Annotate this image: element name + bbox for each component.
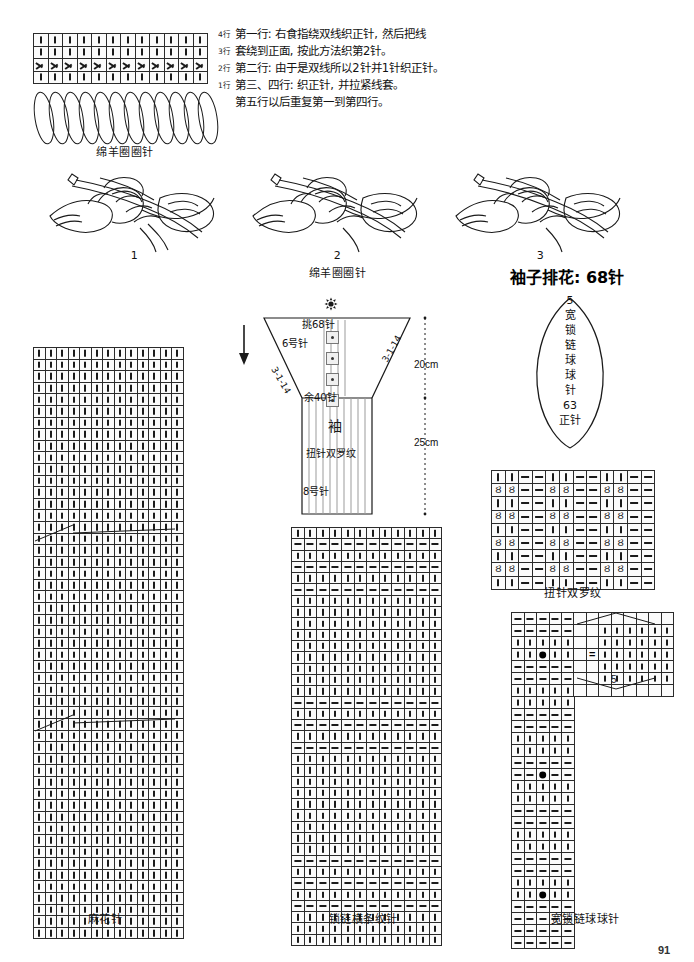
chart-cell-purl bbox=[573, 563, 587, 576]
instruction-line: 第二行: 由于是双线所以2针并1针织正针。 bbox=[235, 60, 444, 77]
chart-cell-knit bbox=[160, 463, 172, 475]
knit-symbol bbox=[149, 580, 160, 591]
chart-cell-knit bbox=[172, 730, 184, 742]
chart-cell-knit bbox=[103, 661, 115, 673]
chart-cell-knit bbox=[429, 776, 442, 787]
chart-cell-blank bbox=[574, 625, 587, 637]
chart-cell-knit bbox=[329, 833, 342, 844]
knit-symbol bbox=[430, 844, 442, 854]
chart-cell-knit bbox=[68, 463, 80, 475]
knit-symbol bbox=[149, 603, 160, 614]
chart-cell-loop bbox=[106, 59, 121, 72]
knit-symbol bbox=[342, 844, 354, 854]
chart-cell-knit bbox=[342, 573, 355, 584]
knit-symbol bbox=[317, 528, 329, 538]
knit-symbol bbox=[172, 580, 183, 591]
knit-symbol bbox=[367, 675, 379, 685]
chart-cell-knit bbox=[57, 765, 69, 777]
chart-cell-knit bbox=[329, 618, 342, 629]
chart-cell-purl bbox=[587, 471, 601, 484]
knit-symbol bbox=[525, 793, 537, 804]
knit-symbol bbox=[126, 348, 137, 359]
knit-symbol bbox=[34, 754, 45, 765]
chart-row bbox=[34, 603, 184, 615]
chart-cell-purl bbox=[417, 539, 430, 550]
chart-cell-knit bbox=[45, 834, 57, 846]
chart-cell-knit bbox=[379, 652, 392, 663]
knit-symbol bbox=[330, 935, 342, 945]
chart-cell-knit bbox=[292, 663, 305, 674]
chart-cell-knit bbox=[68, 394, 80, 406]
chart-cell-knit bbox=[126, 568, 138, 580]
chart-cell-knit bbox=[329, 674, 342, 685]
knit-symbol bbox=[392, 664, 404, 674]
knit-symbol bbox=[57, 510, 68, 521]
knit-symbol bbox=[115, 557, 126, 568]
knit-symbol bbox=[380, 618, 392, 628]
chart-cell-knit bbox=[559, 471, 573, 484]
knit-symbol bbox=[103, 499, 114, 510]
knit-symbol bbox=[69, 394, 80, 405]
purl-symbol bbox=[292, 584, 304, 594]
chart-cell-knit bbox=[417, 686, 430, 697]
chart-cell-knit bbox=[91, 649, 103, 661]
chart-cell-knit bbox=[417, 663, 430, 674]
knit-symbol bbox=[305, 822, 317, 832]
knit-symbol bbox=[342, 765, 354, 775]
purl-symbol bbox=[367, 743, 379, 753]
purl-symbol bbox=[380, 697, 392, 707]
knit-symbol bbox=[161, 754, 172, 765]
arrangement-bottom-number: 63 bbox=[563, 398, 577, 413]
chart-row bbox=[34, 348, 184, 360]
purl-symbol bbox=[512, 613, 524, 624]
knit-symbol bbox=[525, 841, 537, 852]
knit-symbol bbox=[405, 618, 417, 628]
chart-cell-knit bbox=[404, 866, 417, 877]
chart-cell-knit bbox=[624, 649, 637, 661]
knit-symbol bbox=[172, 789, 183, 800]
chart-cell-purl bbox=[549, 937, 562, 949]
chart-cell-knit bbox=[103, 626, 115, 638]
chart-cell-knit bbox=[68, 568, 80, 580]
chart-cell-knit bbox=[114, 742, 126, 754]
knit-symbol bbox=[138, 858, 149, 869]
chart-cell-knit bbox=[160, 545, 172, 557]
knit-symbol bbox=[115, 707, 126, 718]
chart-cell-knit bbox=[354, 663, 367, 674]
knit-symbol bbox=[57, 394, 68, 405]
knit-symbol bbox=[46, 464, 57, 475]
knit-symbol bbox=[161, 394, 172, 405]
knit-symbol bbox=[138, 557, 149, 568]
chart-cell-knit bbox=[80, 463, 92, 475]
knit-symbol bbox=[342, 777, 354, 787]
chart-cell-purl bbox=[292, 561, 305, 572]
knit-symbol bbox=[317, 810, 329, 820]
chart-cell-knit bbox=[137, 498, 149, 510]
chart-cell-knit bbox=[367, 652, 380, 663]
knit-symbol bbox=[115, 649, 126, 660]
chart-cell-knit bbox=[45, 371, 57, 383]
chart-cell-knit bbox=[342, 765, 355, 776]
knit-symbol bbox=[417, 596, 429, 606]
chart-cell-knit bbox=[137, 429, 149, 441]
chart-cell-knit bbox=[45, 475, 57, 487]
knit-symbol bbox=[80, 360, 91, 371]
chart-cell-knit bbox=[57, 626, 69, 638]
chart-cell-purl bbox=[512, 853, 525, 865]
knit-symbol bbox=[305, 618, 317, 628]
knit-symbol bbox=[612, 661, 624, 672]
chart-cell-knit bbox=[417, 799, 430, 810]
knit-symbol bbox=[161, 707, 172, 718]
knit-symbol bbox=[355, 777, 367, 787]
loop-symbol bbox=[92, 59, 106, 71]
chart-cell-knit bbox=[45, 487, 57, 499]
chart-cell-knit bbox=[392, 889, 405, 900]
knit-symbol bbox=[367, 551, 379, 561]
chart-cell-knit bbox=[304, 663, 317, 674]
knit-symbol bbox=[430, 822, 442, 832]
knit-symbol bbox=[149, 777, 160, 788]
chart-cell-knit bbox=[68, 892, 80, 904]
knit-symbol bbox=[126, 476, 137, 487]
knit-symbol bbox=[149, 348, 160, 359]
knit-symbol bbox=[126, 568, 137, 579]
